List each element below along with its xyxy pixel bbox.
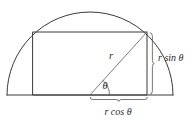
horizontal-brace — [90, 97, 147, 101]
geometry-diagram: r θ r sin θ r cos θ — [0, 0, 193, 120]
label-radius: r — [109, 50, 114, 61]
inscribed-rectangle — [33, 32, 147, 95]
label-angle-theta: θ — [102, 80, 107, 91]
label-r-sin-theta: r sin θ — [158, 52, 184, 63]
figure-container: r θ r sin θ r cos θ — [0, 0, 193, 120]
label-r-cos-theta: r cos θ — [104, 106, 131, 117]
semicircle-arc — [7, 12, 173, 95]
radius-line — [90, 32, 147, 95]
